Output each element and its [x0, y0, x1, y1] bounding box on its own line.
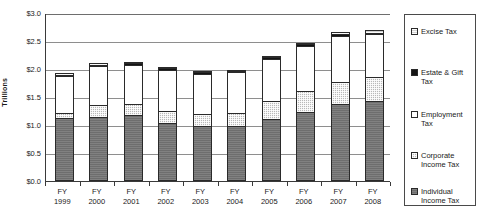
- x-tick-mark: [321, 182, 322, 186]
- x-tick-label: FY2008: [353, 187, 393, 206]
- bar-segment-employment: [262, 59, 281, 102]
- bar-segment-corporate: [365, 77, 384, 101]
- bar-segment-individual: [55, 118, 74, 181]
- x-tick-mark: [45, 182, 46, 186]
- bar-segment-corporate: [124, 104, 143, 115]
- legend-item-employment[interactable]: Employment Tax: [411, 110, 475, 128]
- x-tick-mark: [287, 182, 288, 186]
- bar-2004: [227, 70, 246, 181]
- bar-2005: [262, 56, 281, 181]
- y-tick-label: $0.5: [11, 150, 41, 158]
- y-tick-label: $2.5: [11, 38, 41, 46]
- legend-item-corporate[interactable]: Corporate Income Tax: [411, 151, 475, 169]
- x-tick-mark: [356, 182, 357, 186]
- bar-segment-individual: [89, 117, 108, 181]
- y-axis-tick-labels: $3.0$2.5$2.0$1.5$1.0$0.5$0.0: [11, 0, 41, 223]
- bar-segment-corporate: [331, 82, 350, 104]
- y-tick-label: $0.0: [11, 178, 41, 186]
- bar-segment-corporate: [296, 91, 315, 111]
- legend-label: Employment Tax: [421, 110, 475, 128]
- stacked-bar-chart: Trillions $3.0$2.5$2.0$1.5$1.0$0.5$0.0 F…: [0, 0, 481, 223]
- legend-label: Estate & Gift Tax: [421, 68, 475, 86]
- bar-segment-corporate: [158, 111, 177, 123]
- bar-segment-employment: [55, 76, 74, 112]
- legend-swatch-excise-icon: [411, 28, 418, 35]
- x-tick-mark: [183, 182, 184, 186]
- legend-swatch-estate-icon: [411, 69, 418, 76]
- bar-segment-individual: [296, 112, 315, 181]
- y-tick-label: $3.0: [11, 10, 41, 18]
- legend-item-individual[interactable]: Individual Income Tax: [411, 187, 475, 205]
- bar-2003: [193, 71, 212, 181]
- bar-segment-individual: [331, 104, 350, 181]
- bar-2002: [158, 67, 177, 181]
- x-tick-mark: [218, 182, 219, 186]
- legend-swatch-employment-icon: [411, 111, 418, 118]
- bar-2008: [365, 30, 384, 181]
- x-tick-mark: [390, 182, 391, 186]
- x-axis: FY1999FY2000FY2001FY2002FY2003FY2004FY20…: [45, 182, 390, 223]
- legend-item-estate[interactable]: Estate & Gift Tax: [411, 68, 475, 86]
- bar-segment-employment: [227, 72, 246, 112]
- bar-segment-corporate: [227, 113, 246, 126]
- bar-2007: [331, 32, 350, 181]
- bar-segment-individual: [193, 126, 212, 181]
- bar-segment-employment: [193, 74, 212, 115]
- y-tick-label: $2.0: [11, 66, 41, 74]
- legend-label: Excise Tax: [421, 27, 457, 36]
- y-tick-label: $1.5: [11, 94, 41, 102]
- bar-segment-individual: [227, 126, 246, 181]
- bar-segment-individual: [262, 119, 281, 181]
- y-tick-label: $1.0: [11, 122, 41, 130]
- bar-segment-employment: [365, 34, 384, 77]
- bar-segment-corporate: [89, 105, 108, 117]
- bar-segment-individual: [158, 123, 177, 181]
- legend-swatch-corporate-icon: [411, 152, 418, 159]
- bar-2001: [124, 62, 143, 181]
- x-tick-mark: [80, 182, 81, 186]
- x-tick-label-line: FY: [353, 187, 393, 197]
- bar-segment-employment: [158, 70, 177, 111]
- bar-1999: [55, 73, 74, 181]
- bar-2006: [296, 43, 315, 181]
- plot-area: [45, 14, 390, 182]
- x-tick-mark: [149, 182, 150, 186]
- bar-segment-employment: [296, 46, 315, 91]
- legend-label: Individual Income Tax: [421, 187, 475, 205]
- legend-label: Corporate Income Tax: [421, 151, 475, 169]
- bar-segment-individual: [124, 115, 143, 181]
- bar-segment-individual: [365, 101, 384, 181]
- legend-item-excise[interactable]: Excise Tax: [411, 27, 475, 36]
- legend-swatch-individual-icon: [411, 188, 418, 195]
- x-tick-mark: [114, 182, 115, 186]
- bar-segment-corporate: [262, 101, 281, 118]
- x-tick-mark: [252, 182, 253, 186]
- gridline: [46, 14, 390, 15]
- bar-segment-employment: [89, 66, 108, 105]
- bar-segment-employment: [331, 36, 350, 82]
- bar-2000: [89, 63, 108, 181]
- chart-legend: Excise TaxEstate & Gift TaxEmployment Ta…: [404, 14, 476, 206]
- x-tick-label-line: 2008: [353, 197, 393, 207]
- bar-segment-corporate: [193, 114, 212, 125]
- bar-segment-employment: [124, 65, 143, 105]
